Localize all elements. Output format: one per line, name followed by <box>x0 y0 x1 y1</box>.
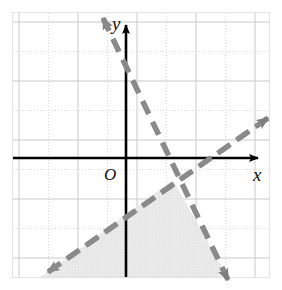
x-axis-label: x <box>252 164 262 185</box>
y-axis-label: y <box>110 13 121 34</box>
coordinate-plane-figure: y x O <box>0 0 282 290</box>
coordinate-plane-svg: y x O <box>0 0 282 290</box>
origin-label: O <box>104 165 116 184</box>
